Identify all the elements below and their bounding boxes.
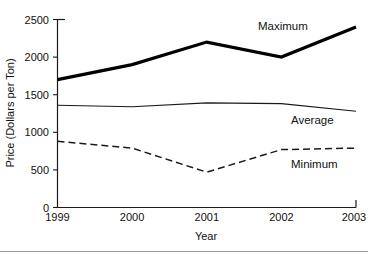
footer-divider bbox=[0, 251, 368, 252]
chart-canvas: 2500 2000 1500 1000 500 0 1999 2000 2001… bbox=[0, 0, 368, 254]
series-label-maximum: Maximum bbox=[258, 20, 308, 32]
x-tick-label-2002: 2002 bbox=[269, 211, 293, 223]
x-tick-label-1999: 1999 bbox=[45, 211, 69, 223]
line-chart-figure: 2500 2000 1500 1000 500 0 1999 2000 2001… bbox=[0, 0, 368, 254]
series-label-minimum: Minimum bbox=[291, 158, 338, 170]
x-axis-title: Year bbox=[195, 230, 218, 242]
x-tick-label-2001: 2001 bbox=[195, 211, 219, 223]
y-tick-label-2000: 2000 bbox=[25, 51, 49, 63]
x-axis-tick-labels: 1999 2000 2001 2002 2003 bbox=[45, 211, 366, 223]
series-line-average bbox=[58, 103, 357, 111]
series-line-maximum bbox=[58, 27, 357, 80]
y-tick-label-500: 500 bbox=[31, 164, 49, 176]
y-tick-label-2500: 2500 bbox=[25, 14, 49, 26]
x-tick-label-2000: 2000 bbox=[120, 211, 144, 223]
y-axis-title: Price (Dollars per Ton) bbox=[4, 58, 16, 167]
x-tick-label-2003: 2003 bbox=[342, 211, 366, 223]
series-label-average: Average bbox=[291, 114, 334, 126]
y-tick-label-1000: 1000 bbox=[25, 126, 49, 138]
y-axis-ticks bbox=[53, 20, 58, 208]
y-tick-label-1500: 1500 bbox=[25, 89, 49, 101]
y-axis-tick-labels: 2500 2000 1500 1000 500 0 bbox=[25, 14, 49, 214]
